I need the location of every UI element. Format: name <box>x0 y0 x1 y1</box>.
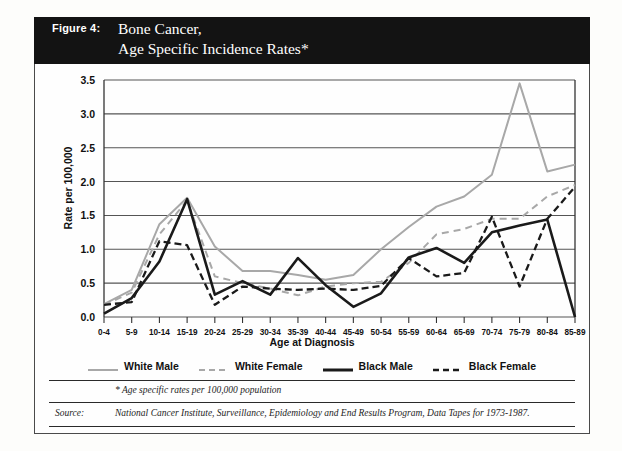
chart-legend: White MaleWhite FemaleBlack MaleBlack Fe… <box>34 355 590 377</box>
legend-swatch-icon <box>199 361 229 371</box>
figure-title: Bone Cancer, Age Specific Incidence Rate… <box>118 19 309 59</box>
figure-page: Figure 4: Bone Cancer, Age Specific Inci… <box>0 0 622 451</box>
legend-swatch-icon <box>433 361 463 371</box>
series-line-white-male <box>104 83 575 304</box>
divider-below-source <box>49 426 575 427</box>
figure-title-banner: Figure 4: Bone Cancer, Age Specific Inci… <box>34 17 590 64</box>
series-line-black-male <box>104 199 575 317</box>
legend-swatch-icon <box>323 361 353 371</box>
legend-label: Black Male <box>359 360 413 372</box>
legend-label: White Female <box>235 360 303 372</box>
series-line-white-female <box>104 185 575 305</box>
legend-item-white-female: White Female <box>199 360 303 372</box>
y-axis-tick-label: 2.5 <box>80 142 95 154</box>
line-chart: 0.00.51.01.52.02.53.03.50-45-910-1415-19… <box>34 64 590 354</box>
y-axis-tick-label: 3.5 <box>80 74 95 86</box>
divider-above-source <box>49 402 575 403</box>
y-axis-tick-label: 3.0 <box>80 108 95 120</box>
x-axis-title: Age at Diagnosis <box>34 336 590 348</box>
y-axis-tick-label: 0.5 <box>80 277 95 289</box>
y-axis-title: Rate per 100,000 <box>62 128 74 248</box>
legend-item-white-male: White Male <box>88 360 179 372</box>
footnote-text: * Age specific rates per 100,000 populat… <box>115 385 281 395</box>
y-axis-tick-label: 2.0 <box>80 176 95 188</box>
source-row: Source:National Cancer Institute, Survei… <box>55 408 530 418</box>
legend-label: White Male <box>124 360 179 372</box>
legend-item-black-male: Black Male <box>323 360 413 372</box>
source-text: National Cancer Institute, Surveillance,… <box>115 408 530 418</box>
legend-swatch-icon <box>88 361 118 371</box>
y-axis-tick-label: 1.5 <box>80 209 95 221</box>
series-line-black-female <box>104 187 575 305</box>
y-axis-tick-label: 0.0 <box>80 311 95 323</box>
legend-item-black-female: Black Female <box>433 360 536 372</box>
figure-number-label: Figure 4: <box>52 22 100 34</box>
chart-plot-area: 0.00.51.01.52.02.53.03.50-45-910-1415-19… <box>34 64 590 354</box>
y-axis-tick-label: 1.0 <box>80 243 95 255</box>
divider-above-footnote <box>49 380 575 381</box>
source-label: Source: <box>55 408 115 418</box>
legend-label: Black Female <box>469 360 536 372</box>
